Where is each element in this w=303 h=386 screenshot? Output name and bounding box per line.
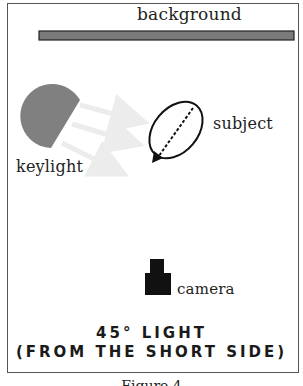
- keylight-icon: [20, 84, 80, 148]
- subject-label: subject: [213, 114, 273, 133]
- figure-caption: Figure 4: [0, 378, 303, 386]
- diagram-title-line-1: 45° LIGHT: [0, 324, 303, 342]
- camera-label: camera: [177, 280, 235, 298]
- camera-icon: [145, 259, 171, 295]
- background-label: background: [137, 4, 242, 24]
- light-ray: [72, 124, 135, 143]
- background-bar: [39, 31, 294, 40]
- light-ray: [80, 105, 140, 121]
- diagram-title-line-2: (FROM THE SHORT SIDE): [0, 343, 303, 361]
- subject-icon: [139, 91, 214, 168]
- keylight-label: keylight: [16, 157, 83, 176]
- subject-axis: [156, 108, 193, 160]
